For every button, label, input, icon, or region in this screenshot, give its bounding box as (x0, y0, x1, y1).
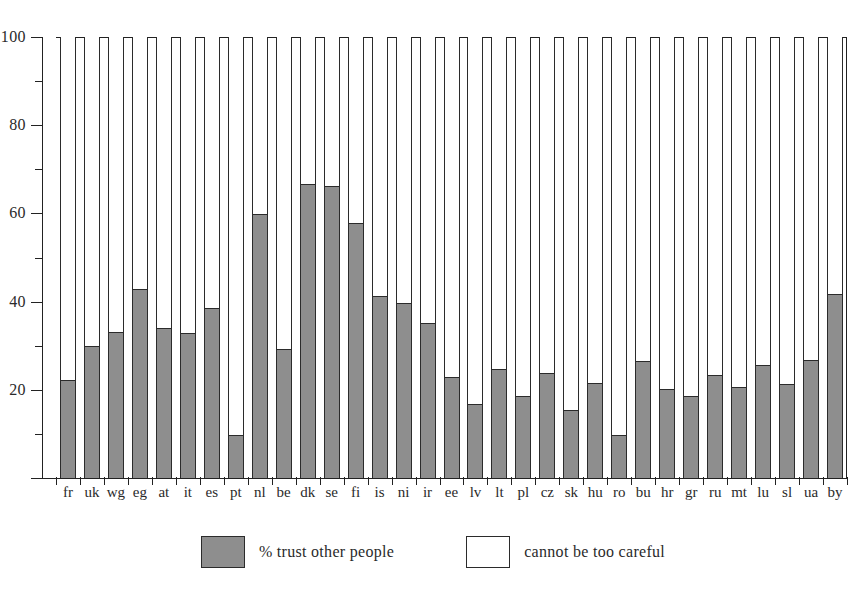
bar-group-bu[interactable] (635, 37, 651, 478)
x-axis-label-wg: wg (107, 485, 125, 500)
bar-segment-trust-cz[interactable] (539, 373, 555, 478)
bar-group-lu[interactable] (755, 37, 771, 478)
x-axis-tick (703, 477, 704, 485)
bar-segment-trust-se[interactable] (324, 186, 340, 478)
bar-group-be[interactable] (276, 37, 292, 478)
bar-group-mt[interactable] (731, 37, 747, 478)
bar-group-es[interactable] (204, 37, 220, 478)
bar-group-ir[interactable] (420, 37, 436, 478)
bar-group-by[interactable] (827, 37, 843, 478)
y-axis-tick-major (31, 302, 43, 303)
bar-group-sl[interactable] (779, 37, 795, 478)
bar-group-pl[interactable] (515, 37, 531, 478)
bar-segment-trust-sk[interactable] (563, 410, 579, 478)
bar-segment-trust-mt[interactable] (731, 387, 747, 478)
bar-segment-trust-lt[interactable] (491, 369, 507, 478)
bar-segment-trust-hr[interactable] (659, 389, 675, 478)
y-axis-label-20: 20 (9, 382, 26, 398)
bar-group-is[interactable] (372, 37, 388, 478)
bar-segment-trust-fr[interactable] (60, 380, 76, 478)
x-axis-tick (440, 477, 441, 485)
bar-group-nl[interactable] (252, 37, 268, 478)
bar-group-ee[interactable] (444, 37, 460, 478)
bar-segment-trust-gr[interactable] (683, 396, 699, 478)
bar-segment-trust-lv[interactable] (467, 404, 483, 478)
chart-legend: % trust other people cannot be too caref… (0, 536, 866, 568)
bar-segment-trust-pl[interactable] (515, 396, 531, 478)
bar-segment-cannot-be-too-careful-ro[interactable] (611, 37, 627, 478)
bar-segment-trust-ir[interactable] (420, 323, 436, 478)
bar-segment-trust-ua[interactable] (803, 360, 819, 478)
bar-group-pt[interactable] (228, 37, 244, 478)
x-axis-tick (56, 477, 57, 485)
bar-segment-trust-uk[interactable] (84, 346, 100, 478)
y-axis-label-80: 80 (9, 117, 26, 133)
x-axis-label-mt: mt (731, 485, 747, 500)
bar-segment-trust-it[interactable] (180, 333, 196, 478)
bar-group-it[interactable] (180, 37, 196, 478)
bar-segment-trust-lu[interactable] (755, 365, 771, 478)
x-axis-tick (751, 477, 752, 485)
bar-group-se[interactable] (324, 37, 340, 478)
x-axis-tick (344, 477, 345, 485)
bar-segment-trust-ni[interactable] (396, 303, 412, 478)
bar-group-uk[interactable] (84, 37, 100, 478)
bar-segment-trust-ru[interactable] (707, 375, 723, 478)
bar-segment-trust-nl[interactable] (252, 214, 268, 478)
bar-segment-trust-eg[interactable] (132, 289, 148, 478)
x-axis-tick (80, 477, 81, 485)
bar-group-ni[interactable] (396, 37, 412, 478)
bar-group-hu[interactable] (587, 37, 603, 478)
bar-segment-trust-ro[interactable] (611, 435, 627, 478)
bar-segment-trust-bu[interactable] (635, 361, 651, 478)
x-axis-label-ua: ua (804, 485, 818, 500)
y-axis-tick-minor (35, 258, 43, 259)
x-axis-tick (679, 477, 680, 485)
bar-segment-trust-hu[interactable] (587, 383, 603, 478)
bar-group-wg[interactable] (108, 37, 124, 478)
bar-segment-trust-sl[interactable] (779, 384, 795, 478)
x-axis-label-hu: hu (588, 485, 603, 500)
x-axis-tick (272, 477, 273, 485)
bar-segment-trust-es[interactable] (204, 308, 220, 478)
y-axis-tick-major (31, 37, 43, 38)
x-axis-tick (416, 477, 417, 485)
y-axis-tick-major (31, 125, 43, 126)
bar-segment-trust-ee[interactable] (444, 377, 460, 478)
bar-segment-cannot-be-too-careful-pt[interactable] (228, 37, 244, 478)
bar-group-fi[interactable] (348, 37, 364, 478)
x-axis-tick (392, 477, 393, 485)
bar-group-at[interactable] (156, 37, 172, 478)
bar-group-eg[interactable] (132, 37, 148, 478)
x-axis-label-be: be (277, 485, 291, 500)
x-axis-label-by: by (828, 485, 843, 500)
x-axis-tick (487, 477, 488, 485)
y-axis-label-60: 60 (9, 205, 26, 221)
y-axis-tick-minor (35, 81, 43, 82)
bar-group-ru[interactable] (707, 37, 723, 478)
bar-group-hr[interactable] (659, 37, 675, 478)
bar-segment-trust-is[interactable] (372, 296, 388, 478)
bar-segment-trust-dk[interactable] (300, 184, 316, 478)
bar-group-gr[interactable] (683, 37, 699, 478)
bar-segment-trust-pt[interactable] (228, 435, 244, 478)
bar-group-sk[interactable] (563, 37, 579, 478)
bar-group-lt[interactable] (491, 37, 507, 478)
bar-group-cz[interactable] (539, 37, 555, 478)
x-axis-tick (631, 477, 632, 485)
bar-segment-trust-at[interactable] (156, 328, 172, 478)
bar-segment-trust-be[interactable] (276, 349, 292, 478)
bar-group-fr[interactable] (60, 37, 76, 478)
bar-series-container: frukwgegatitesptnlbedksefiisniireelvltpl… (56, 37, 847, 478)
bar-group-ua[interactable] (803, 37, 819, 478)
bar-group-dk[interactable] (300, 37, 316, 478)
legend-label-careful: cannot be too careful (524, 543, 665, 561)
bar-segment-trust-wg[interactable] (108, 332, 124, 478)
bar-group-lv[interactable] (467, 37, 483, 478)
bar-group-ro[interactable] (611, 37, 627, 478)
x-axis-tick (224, 477, 225, 485)
bar-segment-trust-fi[interactable] (348, 223, 364, 478)
bar-segment-trust-by[interactable] (827, 294, 843, 478)
y-axis-tick-minor (35, 346, 43, 347)
x-axis-label-se: se (325, 485, 338, 500)
